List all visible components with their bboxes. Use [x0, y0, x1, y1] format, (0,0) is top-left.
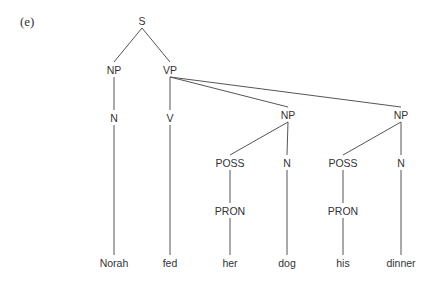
node-n1: N — [110, 112, 118, 124]
edge-vp-np2 — [170, 77, 288, 107]
tree-edges — [114, 28, 401, 255]
tree-nodes: SNPVPNVNPNPPOSSNPOSSNPRONPRONNorahfedher… — [100, 15, 416, 269]
word-w1: Norah — [100, 257, 129, 269]
edge-vp-np3 — [170, 77, 401, 107]
node-poss1: POSS — [215, 157, 244, 169]
node-v: V — [166, 112, 173, 124]
word-w5: his — [336, 257, 349, 269]
edge-np2-poss1 — [230, 122, 288, 155]
word-w6: dinner — [386, 257, 416, 269]
edge-s-vp — [142, 28, 170, 62]
node-np1: NP — [107, 64, 122, 76]
word-w3: her — [222, 257, 238, 269]
word-w4: dog — [278, 257, 296, 269]
word-w2: fed — [163, 257, 178, 269]
edge-np3-poss2 — [343, 122, 401, 155]
node-np3: NP — [394, 109, 409, 121]
edge-np2-n2 — [287, 122, 288, 155]
node-np2: NP — [281, 109, 296, 121]
node-n3: N — [397, 157, 405, 169]
node-n2: N — [283, 157, 291, 169]
edge-s-np1 — [114, 28, 142, 62]
node-poss2: POSS — [328, 157, 357, 169]
node-vp: VP — [163, 64, 177, 76]
node-pron2: PRON — [328, 205, 358, 217]
node-s: S — [138, 15, 145, 27]
node-pron1: PRON — [215, 205, 245, 217]
syntax-tree: (e) SNPVPNVNPNPPOSSNPOSSNPRONPRONNorahfe… — [0, 0, 435, 284]
figure-label: (e) — [20, 14, 34, 29]
